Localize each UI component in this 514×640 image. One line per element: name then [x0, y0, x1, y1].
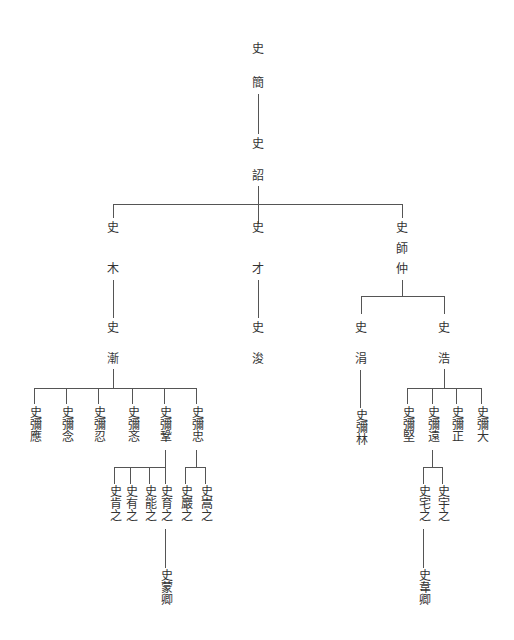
node-shizhong-surname: 史 — [395, 221, 409, 235]
connector-to-yuzhi — [165, 467, 166, 484]
connector-to-zhaizhi — [423, 467, 424, 484]
node-jian-surname: 史 — [251, 42, 265, 56]
connector-zhao-stem — [258, 186, 259, 224]
node-zhaizhi: 史宅之 — [416, 485, 430, 521]
connector-to-shizhong — [402, 204, 403, 218]
connector-to-yanzhi — [185, 467, 186, 484]
connector-miyuan-stem — [432, 450, 433, 467]
node-yanzhi: 史巖之 — [178, 485, 192, 521]
node-miren: 史彌忍 — [91, 406, 105, 442]
connector-to-juan — [361, 296, 362, 314]
connector-zhaizhi-weiqing — [423, 529, 424, 568]
node-songzhi: 史嵩之 — [198, 485, 212, 521]
node-yuzhi: 史育之 — [158, 485, 172, 521]
node-cai-surname: 史 — [251, 221, 265, 235]
node-jian-given: 簡 — [251, 76, 265, 90]
node-miyuan: 史彌遠 — [425, 406, 439, 442]
connector-to-miyuan — [432, 388, 433, 404]
node-mu-given: 木 — [106, 262, 120, 276]
connector-yuzhi-mengqing — [165, 529, 166, 568]
node-mida: 史彌大 — [474, 406, 488, 442]
node-shizhong-given1: 師 — [395, 242, 409, 256]
node-cai-given: 才 — [251, 262, 265, 276]
connector-to-songzhi — [205, 467, 206, 484]
connector-to-kenzhi — [114, 467, 115, 484]
connector-mizhong-children-bar — [185, 467, 206, 468]
connector-shizhong-stem — [402, 280, 403, 296]
node-shizhong-given2: 仲 — [395, 262, 409, 276]
node-jun-given: 浚 — [251, 352, 265, 366]
node-mengqing: 史蒙卿 — [158, 569, 172, 605]
node-miying: 史彌應 — [27, 406, 41, 442]
node-minian: 史彌念 — [59, 406, 73, 442]
connector-juan-milin — [360, 370, 361, 408]
connector-to-youzhi — [130, 467, 131, 484]
connector-to-mimin — [132, 388, 133, 404]
node-nengzhi: 史能之 — [142, 485, 156, 521]
node-mizhong: 史彌忠 — [189, 406, 203, 442]
connector-to-mizhong — [196, 388, 197, 404]
connector-to-mizheng — [456, 388, 457, 404]
node-weiqing: 史韋卿 — [416, 569, 430, 605]
node-mijian: 史彌堅 — [400, 406, 414, 442]
connector-to-nengzhi — [149, 467, 150, 484]
connector-to-migong — [164, 388, 165, 404]
connector-to-miren — [98, 388, 99, 404]
connector-to-minian — [66, 388, 67, 404]
connector-to-mijian — [407, 388, 408, 404]
node-juan-surname: 史 — [354, 321, 368, 335]
connector-jian2-children-bar — [34, 388, 197, 389]
connector-miyuan-children-bar — [423, 467, 443, 468]
node-milin: 史彌林 — [353, 409, 367, 445]
connector-to-miying — [34, 388, 35, 404]
node-youzhi: 史有之 — [123, 485, 137, 521]
connector-to-yuzhi2 — [442, 467, 443, 484]
node-yuzhi2: 史宇之 — [435, 485, 449, 521]
connector-shizhong-children-bar — [361, 296, 445, 297]
node-juan-given: 涓 — [354, 352, 368, 366]
node-kenzhi: 史肯之 — [107, 485, 121, 521]
connector-to-hao — [444, 296, 445, 314]
connector-mizhong-stem — [196, 450, 197, 467]
node-mizheng: 史彌正 — [449, 406, 463, 442]
node-jun-surname: 史 — [251, 321, 265, 335]
connector-migong-children-bar — [114, 467, 166, 468]
connector-hao-stem — [444, 369, 445, 388]
node-jian2-surname: 史 — [106, 321, 120, 335]
node-mimin: 史彌忞 — [125, 406, 139, 442]
node-migong: 史彌鞏 — [157, 406, 171, 442]
node-mu-surname: 史 — [106, 221, 120, 235]
connector-jian-zhao — [258, 94, 259, 134]
connector-cai-jun — [258, 280, 259, 318]
genealogy-diagram: 史 簡 史 詔 史 木 史 才 史 師 仲 史 漸 史 浚 史 涓 史 浩 史彌… — [0, 0, 514, 640]
connector-to-mida — [481, 388, 482, 404]
node-hao-surname: 史 — [437, 321, 451, 335]
connector-zhao-children-bar — [113, 204, 403, 205]
connector-migong-stem — [165, 450, 166, 467]
node-zhao-surname: 史 — [251, 137, 265, 151]
node-hao-given: 浩 — [437, 352, 451, 366]
node-zhao-given: 詔 — [251, 169, 265, 183]
connector-mu-jian2 — [113, 280, 114, 318]
node-jian2-given: 漸 — [106, 352, 120, 366]
connector-jian2-stem — [113, 369, 114, 388]
connector-to-mu — [113, 204, 114, 218]
connector-hao-children-bar — [407, 388, 482, 389]
